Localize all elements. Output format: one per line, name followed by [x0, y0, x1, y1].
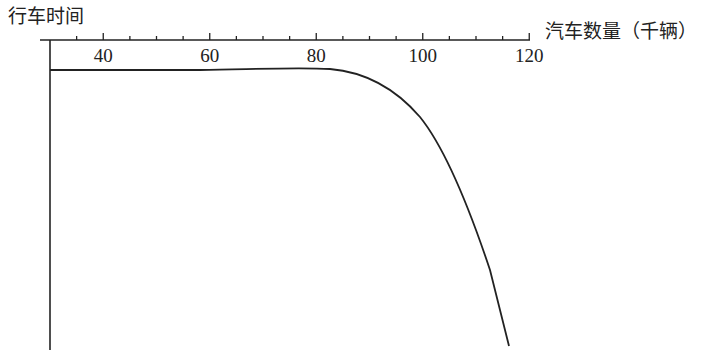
x-tick-label: 120: [515, 45, 544, 66]
x-tick-label: 80: [307, 45, 326, 66]
x-tick-label: 40: [94, 45, 113, 66]
x-axis-ticks: [77, 33, 530, 40]
y-axis-label: 行车时间: [8, 5, 84, 27]
x-tick-label: 100: [409, 45, 438, 66]
travel-time-curve: [50, 68, 509, 346]
x-axis-label: 汽车数量（千辆）: [545, 20, 697, 42]
x-tick-label: 60: [200, 45, 219, 66]
travel-time-chart: 行车时间 汽车数量（千辆） 406080100120: [0, 0, 705, 361]
x-axis-tick-labels: 406080100120: [94, 45, 544, 66]
